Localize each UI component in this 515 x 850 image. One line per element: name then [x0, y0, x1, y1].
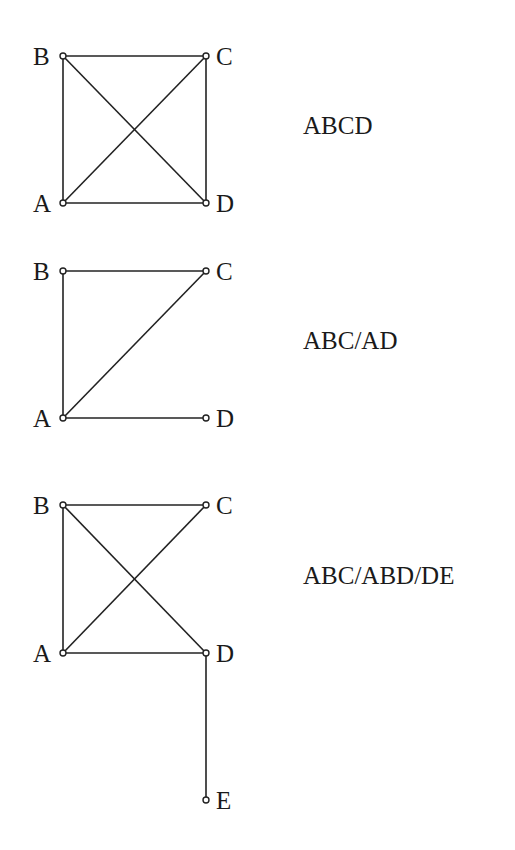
vertex-A: [60, 200, 66, 206]
model-label-1: ABCD: [303, 113, 372, 138]
vertex-label-E: E: [216, 788, 231, 813]
vertex-label-A: A: [33, 406, 51, 431]
vertex-A: [60, 415, 66, 421]
graph-canvas: [0, 0, 515, 850]
graph-diagram-1: [60, 53, 209, 206]
graph-diagram-3: [60, 502, 209, 803]
vertex-A: [60, 650, 66, 656]
vertex-label-C: C: [216, 44, 233, 69]
vertex-E: [203, 797, 209, 803]
edge-AC: [63, 271, 206, 418]
vertex-label-B: B: [33, 493, 50, 518]
vertex-D: [203, 200, 209, 206]
vertex-B: [60, 53, 66, 59]
vertex-C: [203, 268, 209, 274]
graph-diagram-2: [60, 268, 209, 421]
vertex-label-D: D: [216, 406, 234, 431]
vertex-label-B: B: [33, 44, 50, 69]
vertex-C: [203, 502, 209, 508]
vertex-label-A: A: [33, 641, 51, 666]
vertex-C: [203, 53, 209, 59]
vertex-label-D: D: [216, 641, 234, 666]
model-label-2: ABC/AD: [303, 328, 397, 353]
vertex-B: [60, 502, 66, 508]
vertex-B: [60, 268, 66, 274]
vertex-label-B: B: [33, 259, 50, 284]
model-label-3: ABC/ABD/DE: [303, 563, 454, 588]
vertex-D: [203, 415, 209, 421]
vertex-label-C: C: [216, 493, 233, 518]
vertex-label-D: D: [216, 191, 234, 216]
vertex-D: [203, 650, 209, 656]
vertex-label-A: A: [33, 191, 51, 216]
vertex-label-C: C: [216, 259, 233, 284]
